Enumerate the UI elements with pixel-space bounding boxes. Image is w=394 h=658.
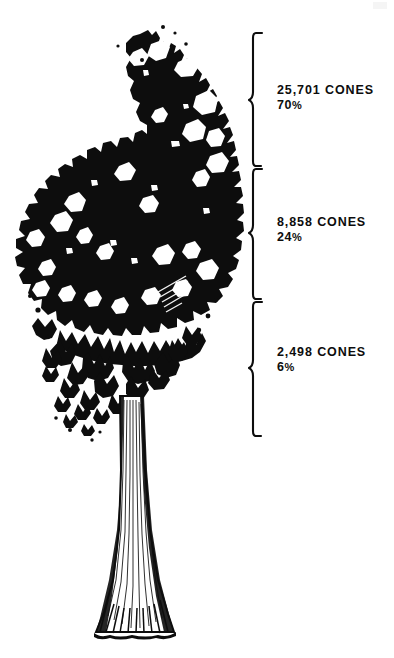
zone-label-upper-crown: 25,701 CONES 70%	[277, 83, 374, 113]
brace-upper-crown	[249, 33, 262, 166]
cone-percent-mid: 24%	[277, 230, 366, 245]
zone-label-mid-crown: 8,858 CONES 24%	[277, 215, 366, 245]
brace-lower-crown	[249, 302, 262, 436]
cone-count-mid: 8,858 CONES	[277, 215, 366, 230]
tree-foliage-silhouette	[15, 30, 244, 336]
cone-count-upper: 25,701 CONES	[277, 83, 374, 98]
figure-canvas: 25,701 CONES 70% 8,858 CONES 24% 2,498 C…	[0, 0, 394, 658]
brace-mid-crown	[249, 169, 262, 299]
measurement-braces	[249, 33, 262, 436]
foliage-lower-fringe	[32, 318, 206, 436]
cone-count-lower: 2,498 CONES	[277, 345, 366, 360]
cone-percent-lower: 6%	[277, 360, 366, 375]
zone-label-lower-crown: 2,498 CONES 6%	[277, 345, 366, 375]
cone-percent-upper: 70%	[277, 98, 374, 113]
tree-trunk	[94, 396, 176, 640]
